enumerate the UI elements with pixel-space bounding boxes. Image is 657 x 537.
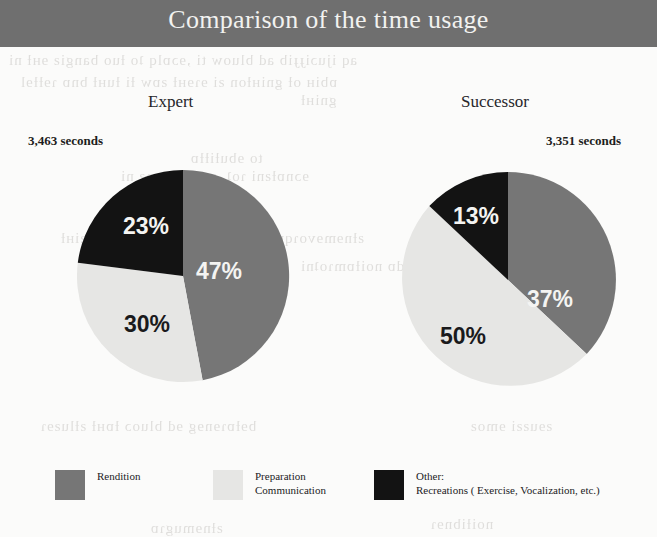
legend-label-preparation: Preparation Communication [255,469,326,497]
legend-swatch-preparation [213,470,243,500]
legend-swatch-other [374,470,404,500]
legend-label-other: Other: Recreations ( Exercise, Vocalizat… [416,469,600,497]
legend-label-rendition: Rendition [97,469,140,483]
legend-swatch-rendition [55,470,85,500]
